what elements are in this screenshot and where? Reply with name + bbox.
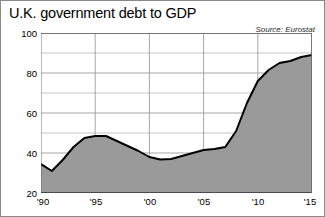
- x-tick-label: '10: [252, 196, 264, 207]
- debt-to-gdp-area-chart: [41, 33, 312, 193]
- x-tick-label: '95: [90, 196, 102, 207]
- chart-card: U.K. government debt to GDP Source: Euro…: [0, 0, 325, 217]
- area-fill: [41, 55, 312, 193]
- x-tick-label: '90: [37, 196, 49, 207]
- x-tick-label: '00: [144, 196, 156, 207]
- plot-area: [41, 33, 312, 193]
- x-tick-label: '05: [198, 196, 210, 207]
- x-tick-label: '15: [304, 196, 316, 207]
